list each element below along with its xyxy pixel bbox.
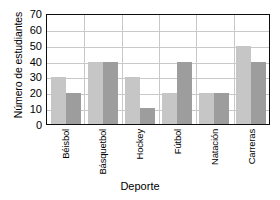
bar (236, 46, 251, 124)
x-category-label: Fútbol (171, 129, 182, 154)
y-tick-label: 50 (18, 40, 42, 51)
x-axis-category-labels: BéisbolBásquetbolHockeyFútbolNataciónCar… (46, 127, 270, 179)
bar (66, 93, 81, 124)
y-tick-label: 0 (18, 120, 42, 131)
x-category-label: Béisbol (59, 129, 70, 159)
bar (251, 62, 266, 124)
x-category-label: Básquetbol (96, 129, 107, 175)
x-category: Básquetbol (83, 127, 120, 179)
bar-group (84, 15, 121, 124)
x-category: Carreras (233, 127, 270, 179)
bar (177, 62, 192, 124)
bar-group (195, 15, 232, 124)
y-tick-label: 30 (18, 72, 42, 83)
x-category-label: Natación (208, 129, 219, 165)
bar-group (47, 15, 84, 124)
bar-group (158, 15, 195, 124)
x-axis-title: Deporte (0, 180, 280, 192)
x-category-label: Hockey (134, 129, 145, 159)
y-tick-label: 10 (18, 104, 42, 115)
bar (214, 93, 229, 124)
y-tick-label: 40 (18, 56, 42, 67)
x-category: Béisbol (46, 127, 83, 179)
x-category: Natación (195, 127, 232, 179)
bar (51, 77, 66, 124)
y-tick-label: 70 (18, 9, 42, 20)
y-tick-label: 60 (18, 24, 42, 35)
x-category: Hockey (121, 127, 158, 179)
bar (88, 62, 103, 124)
x-category-label: Carreras (246, 129, 257, 164)
plot-area (46, 14, 270, 125)
y-tick-label: 20 (18, 88, 42, 99)
y-axis-tick-labels: 70 60 50 40 30 20 10 0 (18, 0, 42, 200)
bar-group (232, 15, 269, 124)
bar-groups (47, 15, 269, 124)
bar (140, 108, 155, 124)
bar (162, 93, 177, 124)
x-category: Fútbol (158, 127, 195, 179)
bar (125, 77, 140, 124)
bar (199, 93, 214, 124)
bar-group (121, 15, 158, 124)
bar-chart: Número de estudiantes 70 60 50 40 30 20 … (0, 0, 280, 200)
bar (103, 62, 118, 124)
